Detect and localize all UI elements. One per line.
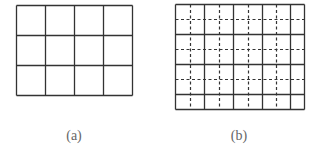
- grid-b: [176, 5, 305, 110]
- caption-b: (b): [231, 129, 247, 143]
- caption-a: (a): [66, 129, 82, 143]
- figure-canvas: [0, 0, 320, 151]
- grid-a: [17, 6, 133, 96]
